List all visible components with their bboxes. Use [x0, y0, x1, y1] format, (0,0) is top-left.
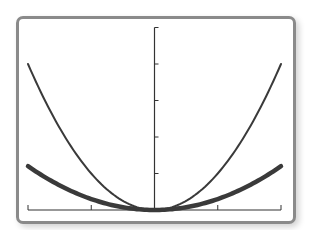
parabola-plot [0, 0, 312, 230]
axes [28, 28, 281, 211]
